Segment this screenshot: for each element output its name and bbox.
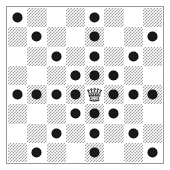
- board-square-r5-c5[interactable]: [85, 85, 104, 104]
- board-square-r8-c6[interactable]: [104, 143, 123, 162]
- board-square-r1-c4[interactable]: [66, 8, 85, 27]
- board-square-r8-c2[interactable]: [27, 143, 46, 162]
- board-square-r3-c6[interactable]: [104, 47, 123, 66]
- board-square-r3-c2[interactable]: [27, 47, 46, 66]
- board-square-r5-c1[interactable]: [8, 85, 27, 104]
- board-square-r3-c1[interactable]: [8, 47, 27, 66]
- board-square-r6-c8[interactable]: [143, 104, 162, 123]
- attacked-square-dot: [90, 129, 99, 138]
- board-square-r7-c3[interactable]: [47, 124, 66, 143]
- board-square-r6-c7[interactable]: [124, 104, 143, 123]
- board-square-r2-c4[interactable]: [66, 27, 85, 46]
- board-square-r2-c8[interactable]: [143, 27, 162, 46]
- board-square-r5-c6[interactable]: [104, 85, 123, 104]
- attacked-square-dot: [90, 52, 99, 61]
- attacked-square-dot: [148, 148, 157, 157]
- chess-diagram: [0, 0, 170, 170]
- board-square-r4-c1[interactable]: [8, 66, 27, 85]
- attacked-square-dot: [90, 71, 99, 80]
- board-square-r1-c6[interactable]: [104, 8, 123, 27]
- attacked-square-dot: [52, 52, 61, 61]
- attacked-square-dot: [109, 109, 118, 118]
- queen-icon[interactable]: [86, 86, 103, 103]
- board-square-r3-c5[interactable]: [85, 47, 104, 66]
- attacked-square-dot: [52, 129, 61, 138]
- board-square-r7-c4[interactable]: [66, 124, 85, 143]
- board-square-r4-c3[interactable]: [47, 66, 66, 85]
- board-square-r7-c8[interactable]: [143, 124, 162, 143]
- board-square-r7-c7[interactable]: [124, 124, 143, 143]
- board-square-r6-c3[interactable]: [47, 104, 66, 123]
- attacked-square-dot: [32, 90, 41, 99]
- board-square-r1-c7[interactable]: [124, 8, 143, 27]
- board-square-r5-c2[interactable]: [27, 85, 46, 104]
- attacked-square-dot: [13, 90, 22, 99]
- board-square-r2-c7[interactable]: [124, 27, 143, 46]
- board-square-r3-c8[interactable]: [143, 47, 162, 66]
- board-square-r8-c1[interactable]: [8, 143, 27, 162]
- attacked-square-dot: [148, 32, 157, 41]
- attacked-square-dot: [129, 90, 138, 99]
- attacked-square-dot: [32, 148, 41, 157]
- attacked-square-dot: [129, 129, 138, 138]
- board-square-r6-c4[interactable]: [66, 104, 85, 123]
- board-square-r4-c7[interactable]: [124, 66, 143, 85]
- attacked-square-dot: [71, 71, 80, 80]
- board-square-r1-c2[interactable]: [27, 8, 46, 27]
- board-square-r4-c5[interactable]: [85, 66, 104, 85]
- board-square-r4-c4[interactable]: [66, 66, 85, 85]
- board-square-r6-c2[interactable]: [27, 104, 46, 123]
- board-square-r5-c4[interactable]: [66, 85, 85, 104]
- board-square-r3-c7[interactable]: [124, 47, 143, 66]
- board-square-r7-c6[interactable]: [104, 124, 123, 143]
- attacked-square-dot: [129, 52, 138, 61]
- board-square-r7-c2[interactable]: [27, 124, 46, 143]
- attacked-square-dot: [148, 90, 157, 99]
- board-square-r2-c6[interactable]: [104, 27, 123, 46]
- board-square-r6-c5[interactable]: [85, 104, 104, 123]
- board-square-r1-c1[interactable]: [8, 8, 27, 27]
- board-square-r5-c8[interactable]: [143, 85, 162, 104]
- board-square-r8-c8[interactable]: [143, 143, 162, 162]
- chessboard-grid[interactable]: [8, 8, 162, 162]
- board-square-r2-c5[interactable]: [85, 27, 104, 46]
- attacked-square-dot: [52, 90, 61, 99]
- board-square-r6-c1[interactable]: [8, 104, 27, 123]
- attacked-square-dot: [90, 109, 99, 118]
- attacked-square-dot: [109, 90, 118, 99]
- attacked-square-dot: [71, 90, 80, 99]
- board-square-r2-c3[interactable]: [47, 27, 66, 46]
- board-square-r8-c5[interactable]: [85, 143, 104, 162]
- attacked-square-dot: [71, 109, 80, 118]
- board-square-r2-c2[interactable]: [27, 27, 46, 46]
- board-square-r5-c7[interactable]: [124, 85, 143, 104]
- attacked-square-dot: [32, 32, 41, 41]
- attacked-square-dot: [90, 148, 99, 157]
- board-square-r3-c3[interactable]: [47, 47, 66, 66]
- board-square-r5-c3[interactable]: [47, 85, 66, 104]
- board-square-r6-c6[interactable]: [104, 104, 123, 123]
- attacked-square-dot: [90, 32, 99, 41]
- board-square-r4-c6[interactable]: [104, 66, 123, 85]
- board-square-r1-c8[interactable]: [143, 8, 162, 27]
- board-square-r8-c7[interactable]: [124, 143, 143, 162]
- board-square-r1-c5[interactable]: [85, 8, 104, 27]
- attacked-square-dot: [13, 13, 22, 22]
- board-square-r2-c1[interactable]: [8, 27, 27, 46]
- board-square-r1-c3[interactable]: [47, 8, 66, 27]
- attacked-square-dot: [109, 71, 118, 80]
- board-square-r7-c5[interactable]: [85, 124, 104, 143]
- board-square-r4-c2[interactable]: [27, 66, 46, 85]
- board-square-r3-c4[interactable]: [66, 47, 85, 66]
- board-square-r8-c3[interactable]: [47, 143, 66, 162]
- attacked-square-dot: [90, 13, 99, 22]
- board-square-r4-c8[interactable]: [143, 66, 162, 85]
- board-square-r7-c1[interactable]: [8, 124, 27, 143]
- chessboard-frame: [6, 6, 164, 164]
- board-square-r8-c4[interactable]: [66, 143, 85, 162]
